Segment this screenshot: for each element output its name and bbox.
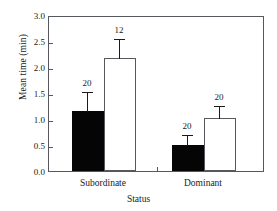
error-bar-cap: [114, 39, 125, 40]
y-tick-mark: [49, 95, 53, 96]
error-bar-cap: [82, 92, 93, 93]
sample-size-label: 20: [83, 79, 92, 88]
sample-size-label: 20: [215, 93, 224, 102]
x-tick-label-dominant: Dominant: [184, 178, 222, 188]
error-bar-cap: [214, 106, 225, 107]
y-tick-label: 1.5: [5, 90, 45, 99]
y-tick-mark: [49, 147, 53, 148]
y-tick-label: 0.0: [5, 168, 45, 177]
sample-size-label: 20: [183, 122, 192, 131]
error-bar-stem: [219, 106, 220, 119]
y-tick-label: 3.0: [5, 12, 45, 21]
y-tick-mark: [49, 69, 53, 70]
y-tick-mark: [49, 121, 53, 122]
plot-area: [48, 16, 264, 172]
y-tick-label: 2.5: [5, 38, 45, 47]
error-bar-stem: [119, 39, 120, 58]
error-bar-cap: [182, 135, 193, 136]
y-tick-label: 2.0: [5, 64, 45, 73]
x-axis-title: Status: [0, 194, 277, 204]
y-tick-label: 0.5: [5, 142, 45, 151]
bar-subordinate-open: [104, 58, 136, 171]
y-tick-label: 1.0: [5, 116, 45, 125]
x-tick-label-subordinate: Subordinate: [80, 178, 126, 188]
error-bar-stem: [87, 92, 88, 112]
bar-dominant-filled: [172, 145, 204, 171]
bar-subordinate-filled: [72, 111, 104, 171]
bar-chart-figure: Mean time (min) 0.00.51.01.52.02.53.0 20…: [0, 0, 277, 211]
y-tick-mark: [49, 43, 53, 44]
error-bar-stem: [187, 135, 188, 146]
x-tick-mark: [157, 167, 158, 171]
sample-size-label: 12: [115, 26, 124, 35]
bar-dominant-open: [204, 118, 236, 171]
